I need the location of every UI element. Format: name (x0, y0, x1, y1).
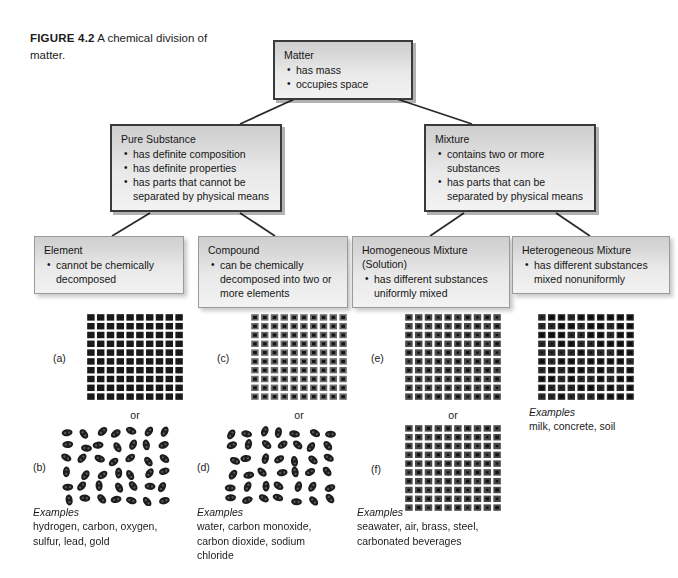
examples-compound: Examples water, carbon monoxide, carbon … (197, 505, 362, 563)
examples-homogeneous-text: seawater, air, brass, steel, carbonated … (357, 519, 532, 548)
list-item: has parts that can be separated by physi… (438, 175, 586, 203)
node-heterogeneous-mixture: Heterogeneous Mixture has different subs… (512, 236, 670, 294)
node-mixture: Mixture contains two or more substances … (424, 124, 596, 212)
particle-tag-e: (e) (371, 352, 384, 364)
node-element-title: Element (44, 243, 175, 257)
particle-tag-a: (a) (53, 352, 66, 364)
particle-diagram-b (60, 426, 172, 506)
node-homogeneous-mixture-bullets: has different substances uniformly mixed (362, 272, 501, 300)
list-item: occupies space (287, 77, 403, 91)
connector-mixture-to-homogeneous (430, 213, 464, 236)
particle-tag-d: (d) (197, 461, 210, 473)
examples-heading: Examples (33, 505, 198, 519)
figure-canvas: FIGURE 4.2 A chemical division of matter… (0, 0, 678, 578)
connector-pure-to-element (112, 213, 150, 236)
node-matter-title: Matter (284, 48, 403, 62)
examples-heterogeneous: Examples milk, concrete, soil (529, 405, 678, 434)
particle-diagram-f (404, 424, 502, 512)
figure-caption: FIGURE 4.2 A chemical division of matter… (30, 30, 245, 63)
examples-heading: Examples (197, 505, 362, 519)
list-item: has definite properties (124, 161, 272, 175)
particle-tag-b: (b) (33, 461, 46, 473)
node-pure-substance-bullets: has definite composition has definite pr… (121, 147, 272, 203)
or-label-compound: or (250, 409, 348, 421)
connector-pure-to-compound (240, 213, 275, 236)
node-mixture-bullets: contains two or more substances has part… (435, 147, 586, 203)
particle-diagram-heterogeneous (537, 313, 635, 401)
examples-heading: Examples (357, 505, 532, 519)
particle-tag-c: (c) (217, 352, 229, 364)
node-matter: Matter has mass occupies space (273, 40, 413, 100)
node-element: Element cannot be chemically decomposed (34, 236, 184, 294)
node-pure-substance: Pure Substance has definite composition … (110, 124, 282, 212)
examples-element: Examples hydrogen, carbon, oxygen, sulfu… (33, 505, 198, 548)
node-heterogeneous-mixture-bullets: has different substances mixed nonunifor… (522, 258, 661, 286)
connector-mixture-to-heterogeneous (556, 213, 590, 236)
particle-diagram-e (404, 313, 502, 401)
node-compound-bullets: can be chemically decomposed into two or… (208, 258, 339, 300)
node-matter-bullets: has mass occupies space (284, 63, 403, 91)
examples-element-text: hydrogen, carbon, oxygen, sulfur, lead, … (33, 519, 198, 548)
node-element-bullets: cannot be chemically decomposed (44, 258, 175, 286)
node-homogeneous-mixture: Homogeneous Mixture (Solution) has diffe… (352, 236, 510, 308)
particle-diagram-a (86, 313, 184, 401)
examples-heterogeneous-text: milk, concrete, soil (529, 419, 678, 433)
list-item: contains two or more substances (438, 147, 586, 175)
node-pure-substance-title: Pure Substance (121, 132, 272, 146)
particle-diagram-c (250, 313, 348, 401)
examples-homogeneous: Examples seawater, air, brass, steel, ca… (357, 505, 532, 548)
figure-number: FIGURE 4.2 (30, 32, 95, 44)
particle-tag-f: (f) (371, 463, 381, 475)
list-item: has definite composition (124, 147, 272, 161)
node-heterogeneous-mixture-title: Heterogeneous Mixture (522, 243, 661, 257)
particle-diagram-d (224, 426, 336, 506)
list-item: has different substances mixed nonunifor… (525, 258, 661, 286)
list-item: can be chemically decomposed into two or… (211, 258, 339, 300)
examples-heading: Examples (529, 405, 678, 419)
node-compound-title: Compound (208, 243, 339, 257)
or-label-element: or (86, 409, 184, 421)
node-homogeneous-mixture-title: Homogeneous Mixture (Solution) (362, 243, 501, 271)
list-item: cannot be chemically decomposed (47, 258, 175, 286)
examples-compound-text: water, carbon monoxide, carbon dioxide, … (197, 519, 362, 562)
node-mixture-title: Mixture (435, 132, 586, 146)
list-item: has different substances uniformly mixed (365, 272, 501, 300)
list-item: has mass (287, 63, 403, 77)
node-compound: Compound can be chemically decomposed in… (198, 236, 348, 308)
or-label-homogeneous: or (404, 409, 502, 421)
list-item: has parts that cannot be separated by ph… (124, 175, 272, 203)
